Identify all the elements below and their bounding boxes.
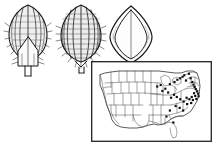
map-dot	[179, 77, 181, 79]
map-dot	[170, 97, 172, 99]
map-dot	[179, 107, 181, 109]
map-dot	[173, 94, 175, 96]
map-dot	[160, 84, 162, 86]
map-dot	[188, 73, 190, 75]
map-dot	[193, 92, 195, 94]
map-dot	[176, 79, 178, 81]
figure-spikelet-ventral	[2, 2, 54, 77]
map-dot	[190, 77, 192, 79]
map-dot	[186, 103, 188, 105]
map-dot	[185, 97, 187, 99]
map-dot	[191, 81, 193, 83]
map-dot	[196, 90, 198, 92]
map-dot	[165, 115, 167, 117]
map-dot	[194, 86, 196, 88]
map-dot	[176, 96, 178, 98]
map-dot	[182, 109, 184, 111]
botanical-plate	[0, 0, 217, 145]
map-dot	[198, 95, 200, 97]
map-dot	[185, 79, 187, 81]
map-dot	[156, 85, 158, 87]
map-dot	[169, 109, 171, 111]
map-dot	[161, 90, 163, 92]
map-dot	[164, 88, 166, 90]
map-dot	[191, 96, 193, 98]
map-dot	[173, 81, 175, 83]
map-dot	[192, 99, 194, 101]
map-dot	[190, 102, 192, 104]
map-dot	[194, 95, 196, 97]
figure-us-distribution-map	[91, 61, 212, 142]
figure-caryopsis-smooth	[106, 4, 156, 66]
map-dot	[195, 98, 197, 100]
map-dot	[188, 98, 190, 100]
map-dot	[195, 88, 197, 90]
map-frame	[92, 62, 212, 142]
map-dot	[179, 98, 181, 100]
map-dot	[192, 84, 194, 86]
map-dot	[167, 91, 169, 93]
map-dot	[183, 100, 185, 102]
map-dot	[183, 74, 185, 76]
map-dot	[169, 83, 171, 85]
map-dot	[197, 93, 199, 95]
map-dot	[172, 121, 174, 123]
map-dot	[175, 105, 177, 107]
